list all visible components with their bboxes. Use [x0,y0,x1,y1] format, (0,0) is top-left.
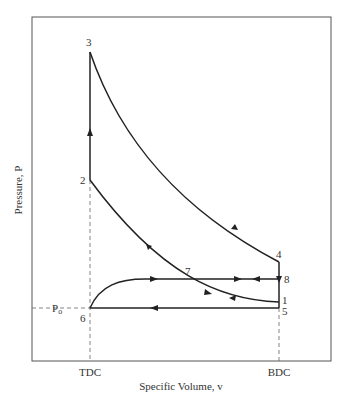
arrow-left-icon [150,305,158,311]
process-6-8 [90,279,279,308]
point-label-6: 6 [80,312,86,324]
point-label-5: 5 [282,305,288,317]
y-axis-label: Pressure, P [12,166,24,215]
arrow-right-icon [150,276,158,282]
arrow-right-icon [234,276,242,282]
x-axis-label: Specific Volume, v [139,380,223,392]
arrow-up-icon [87,128,93,136]
process-3-4 [90,52,279,262]
arrow-left-icon [252,276,260,282]
reference-pressure-label: Po [52,302,62,316]
arrow-left-icon [229,295,236,301]
x-tick-tdc: TDC [79,366,101,378]
point-label-2: 2 [80,174,86,186]
pv-diagram: 3 2 4 7 8 1 5 6 Po TDC BDC Specific Volu… [0,0,344,400]
arrow-down-right-icon [231,224,238,230]
point-label-3: 3 [86,36,92,48]
point-label-4: 4 [276,248,282,260]
arrow-right-icon [204,289,212,295]
x-tick-bdc: BDC [268,366,291,378]
point-label-7: 7 [185,265,191,277]
point-label-8: 8 [284,273,290,285]
process-1-2 [90,180,279,302]
